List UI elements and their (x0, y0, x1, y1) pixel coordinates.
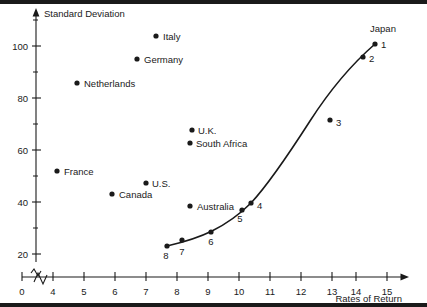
y-axis: 100 80 60 40 20 Standard Deviation (12, 8, 125, 276)
x-tick-label-5: 5 (81, 286, 86, 297)
frontier-point-7-dot[interactable] (179, 237, 184, 242)
x-tick-label-7: 7 (143, 286, 148, 297)
x-tick-label-8: 8 (174, 286, 179, 297)
country-point-australia-dot[interactable] (187, 203, 192, 208)
country-label-us: U.S. (152, 178, 170, 189)
frontier-point-1-dot[interactable] (372, 41, 377, 46)
y-axis-arrow-icon (33, 8, 40, 17)
country-point-france-dot[interactable] (54, 168, 59, 173)
country-label-australia: Australia (197, 201, 235, 212)
x-tick-label-9: 9 (205, 286, 210, 297)
country-point-south-africa-dot[interactable] (187, 140, 192, 145)
y-tick-label-80: 80 (17, 93, 28, 104)
x-axis-break-icon (34, 273, 47, 284)
y-axis-title: Standard Deviation (44, 8, 125, 19)
x-tick-label-12: 12 (296, 286, 307, 297)
country-point-uk-dot[interactable] (189, 127, 194, 132)
country-label-south-africa: South Africa (196, 138, 248, 149)
x-tick-label-10: 10 (234, 286, 245, 297)
frontier-point-1-label: 1 (381, 39, 386, 50)
y-tick-label-20: 20 (17, 249, 28, 260)
country-label-netherlands: Netherlands (84, 78, 135, 89)
frontier-point-4-label: 4 (257, 200, 262, 211)
country-points-group: Italy Germany Netherlands U.K. South Afr… (54, 23, 396, 212)
frontier-point-5-dot[interactable] (239, 207, 244, 212)
country-label-uk: U.K. (198, 125, 216, 136)
y-tick-label-100: 100 (12, 41, 28, 52)
y-tick-label-40: 40 (17, 197, 28, 208)
frontier-point-7-label: 7 (179, 246, 184, 257)
x-tick-label-11: 11 (265, 286, 275, 297)
x-tick-label-4: 4 (50, 286, 55, 297)
chart-figure: 100 80 60 40 20 Standard Deviation (0, 0, 427, 307)
frontier-point-2-dot[interactable] (360, 54, 365, 59)
x-axis-title: Rates of Return (335, 293, 402, 304)
frontier-point-6-dot[interactable] (208, 229, 213, 234)
x-axis-arrow-icon (401, 274, 410, 281)
country-label-italy: Italy (163, 31, 181, 42)
country-point-netherlands-dot[interactable] (74, 80, 79, 85)
country-point-italy-dot[interactable] (153, 33, 158, 38)
country-point-us-dot[interactable] (143, 180, 148, 185)
country-point-germany-dot[interactable] (134, 56, 139, 61)
country-point-canada-dot[interactable] (109, 191, 114, 196)
country-label-canada: Canada (119, 189, 153, 200)
frontier-point-2-label: 2 (369, 53, 374, 64)
country-label-france: France (64, 166, 94, 177)
country-label-japan: Japan (370, 23, 396, 34)
frontier-point-8-label: 8 (163, 250, 168, 261)
y-tick-label-60: 60 (17, 145, 28, 156)
x-tick-label-6: 6 (112, 286, 117, 297)
frontier-points-group: 1 2 3 4 5 6 7 8 (163, 39, 386, 261)
y-axis-break-icon (31, 269, 41, 276)
x-tick-label-0: 0 (19, 286, 24, 297)
country-label-germany: Germany (144, 54, 183, 65)
frontier-point-8-dot[interactable] (164, 243, 169, 248)
frontier-point-3-dot[interactable] (327, 117, 332, 122)
frontier-point-4-dot[interactable] (248, 200, 253, 205)
frontier-point-5-label: 5 (237, 213, 242, 224)
frontier-point-6-label: 6 (208, 236, 213, 247)
x-axis: 0 4 5 6 7 8 9 10 11 12 13 14 15 Rates of… (19, 272, 409, 304)
scatter-plot-svg: 100 80 60 40 20 Standard Deviation (0, 0, 427, 307)
frontier-point-3-label: 3 (336, 117, 341, 128)
